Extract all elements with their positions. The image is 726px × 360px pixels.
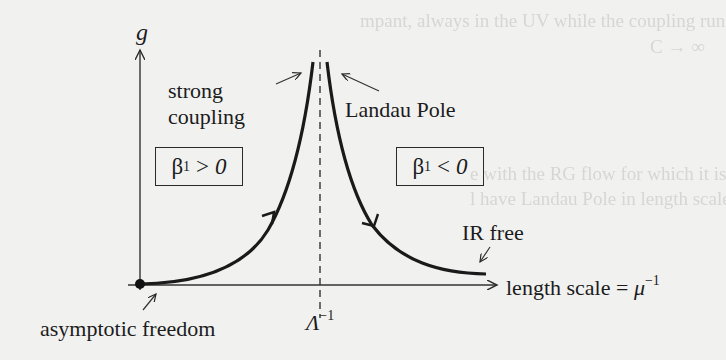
y-axis-label: g <box>136 20 148 44</box>
flow-arrow-left-icon <box>262 212 274 224</box>
asymptotic-freedom-label: asymptotic freedom <box>40 318 215 340</box>
strong-coupling-label-line1: strong <box>168 80 223 102</box>
relation-symbol: > <box>196 155 209 178</box>
rg-flow-diagram <box>0 0 726 360</box>
asymptotic-freedom-fixed-point <box>135 279 145 289</box>
lambda-symbol: Λ <box>306 310 319 335</box>
arrow-to-left-pole-icon <box>276 73 301 84</box>
region-box-beta-positive: β1 > 0 <box>155 147 243 186</box>
arrow-to-right-pole-icon <box>342 74 379 91</box>
x-axis-label-symbol: μ <box>634 275 645 300</box>
landau-pole-label: Landau Pole <box>345 99 456 121</box>
lambda-exponent: −1 <box>319 308 334 323</box>
relation-value: 0 <box>215 155 227 178</box>
arrow-to-ir-free-icon <box>480 247 490 262</box>
relation-symbol: < <box>437 155 450 178</box>
x-axis-label-text: length scale = <box>506 275 634 300</box>
beta-symbol: β <box>412 155 424 178</box>
x-axis-label: length scale = μ−1 <box>506 277 660 299</box>
relation-value: 0 <box>456 155 468 178</box>
arrow-to-origin-icon <box>143 294 156 310</box>
region-box-beta-negative: β1 < 0 <box>396 147 484 186</box>
ir-free-label: IR free <box>462 222 524 244</box>
strong-coupling-label-line2: coupling <box>168 106 245 128</box>
beta-symbol: β <box>171 155 183 178</box>
pole-position-label: Λ−1 <box>306 312 334 334</box>
x-axis-label-exponent: −1 <box>645 273 660 288</box>
